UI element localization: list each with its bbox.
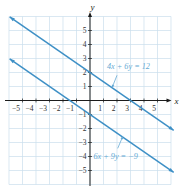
y-tick-label: −5	[79, 166, 87, 175]
y-axis-arrow-icon	[88, 12, 92, 17]
y-tick-label: −2	[79, 124, 87, 133]
x-tick-label: 5	[152, 104, 156, 113]
x-tick-label: −4	[26, 104, 34, 113]
y-axis-label: y	[90, 2, 95, 12]
x-tick-label: 1	[98, 104, 102, 113]
y-tick-label: 1	[83, 82, 87, 91]
y-tick-label: −3	[79, 138, 87, 147]
y-tick-label: 4	[83, 40, 87, 49]
coordinate-plane-graph: xy−5−4−3−2−112345−5−4−3−2−1123454x + 6y …	[0, 0, 182, 194]
x-tick-label: 3	[125, 104, 129, 113]
x-tick-label: −3	[39, 104, 47, 113]
y-tick-label: −4	[79, 152, 87, 161]
x-tick-label: 2	[112, 104, 116, 113]
equation-label: 6x + 9y = −9	[93, 152, 137, 161]
line-series-0	[10, 17, 174, 130]
x-axis-label: x	[174, 96, 179, 106]
equation-label: 4x + 6y = 12	[107, 62, 150, 71]
line-series-1	[10, 59, 174, 172]
x-tick-label: −1	[66, 104, 74, 113]
y-tick-label: 5	[83, 26, 87, 35]
linear-equations-figure: xy−5−4−3−2−112345−5−4−3−2−1123454x + 6y …	[0, 0, 182, 194]
y-tick-label: 3	[83, 54, 87, 63]
annotation-arrow	[112, 75, 117, 86]
x-tick-label: −5	[12, 104, 20, 113]
x-tick-label: −2	[53, 104, 61, 113]
